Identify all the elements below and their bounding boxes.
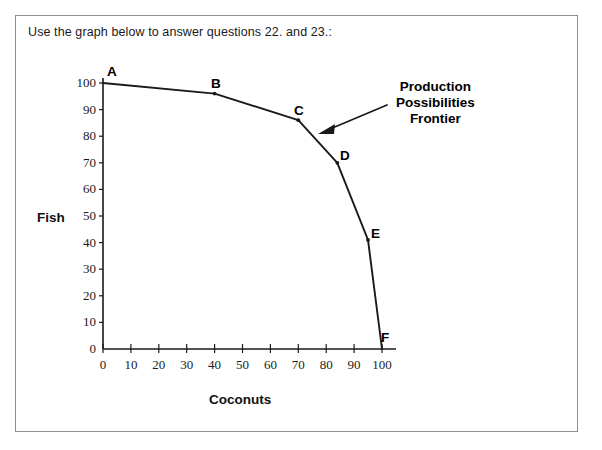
annotation-arrow-icon	[318, 105, 387, 134]
ppf-annotation-line-2: Possibilities	[396, 95, 475, 111]
y-tick-label: 10	[72, 314, 96, 330]
data-point-label-e: E	[371, 226, 380, 241]
y-tick-label: 90	[72, 102, 96, 118]
y-tick-label: 50	[72, 208, 96, 224]
y-tick-label: 100	[72, 75, 96, 91]
x-tick-label: 60	[264, 357, 277, 373]
y-axis-title: Fish	[37, 210, 65, 225]
y-tick-label: 60	[72, 181, 96, 197]
y-tick-label: 40	[72, 235, 96, 251]
x-tick-label: 20	[152, 357, 165, 373]
x-tick-label: 100	[372, 357, 392, 373]
data-point-label-b: B	[211, 76, 221, 91]
data-point-label-c: C	[294, 103, 304, 118]
y-tick-label: 30	[72, 261, 96, 277]
x-tick-label: 70	[292, 357, 305, 373]
chart-canvas	[0, 0, 602, 450]
x-tick-label: 90	[348, 357, 361, 373]
data-point-label-a: A	[107, 64, 117, 79]
x-tick-label: 10	[124, 357, 137, 373]
y-tick-label: 80	[72, 128, 96, 144]
ppf-chart: 100 90 80 70 60 50 40 30 20 10 0 0 10 20…	[0, 0, 602, 450]
y-tick-label: 70	[72, 155, 96, 171]
ppf-curve	[103, 83, 382, 349]
x-tick-label: 40	[208, 357, 221, 373]
ppf-annotation-line-1: Production	[396, 79, 475, 95]
y-tick-label: 0	[72, 341, 96, 357]
ppf-vertex-markers	[213, 92, 370, 242]
data-point-label-f: F	[381, 330, 389, 345]
data-point-label-d: D	[340, 148, 350, 163]
x-tick-label: 30	[180, 357, 193, 373]
x-tick-label: 50	[236, 357, 249, 373]
x-axis-title: Coconuts	[209, 392, 271, 407]
y-tick-label: 20	[72, 288, 96, 304]
ppf-annotation-line-3: Frontier	[396, 111, 475, 127]
ppf-annotation: Production Possibilities Frontier	[396, 79, 475, 127]
x-tick-label: 0	[100, 357, 107, 373]
x-tick-label: 80	[320, 357, 333, 373]
